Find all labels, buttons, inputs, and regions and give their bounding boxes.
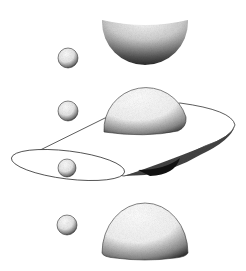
small-sphere-2 [58, 101, 78, 121]
dome-on-disc [104, 88, 186, 135]
small-sphere-1 [58, 48, 78, 68]
large-hemisphere-top [102, 20, 188, 65]
small-sphere-3 [58, 159, 76, 177]
stipple-illustration [0, 0, 246, 271]
dome-bottom [102, 203, 188, 260]
small-sphere-4 [57, 215, 77, 235]
